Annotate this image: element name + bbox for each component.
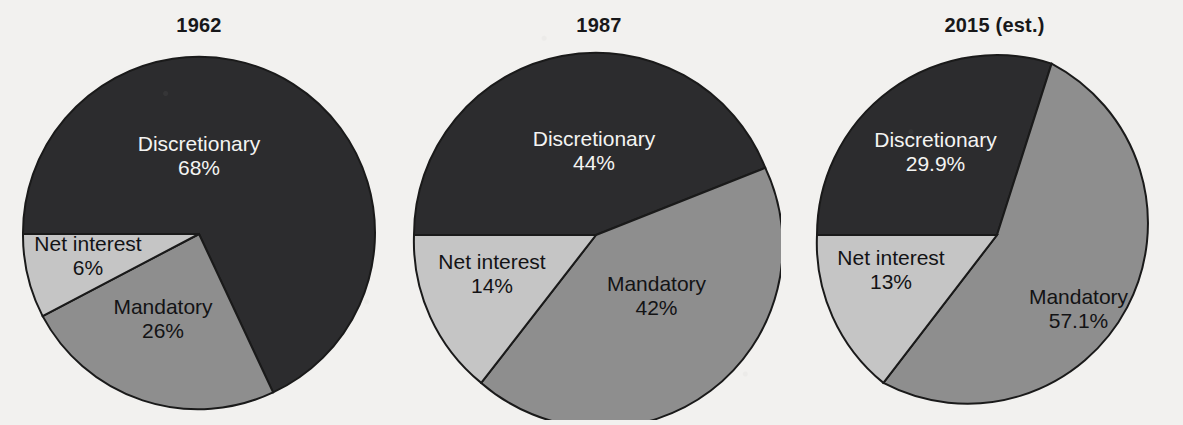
pie-chart-1962: 1962 Discretionary 68% Mandatory 26% Net… xyxy=(0,0,398,425)
pie-svg-1962 xyxy=(20,55,378,413)
chart-title-1962: 1962 xyxy=(0,13,398,37)
pie-graphic-2015 xyxy=(814,52,1180,418)
pie-graphic-1962 xyxy=(20,55,378,413)
pie-svg-2015 xyxy=(814,52,1180,418)
pie-graphic-1987 xyxy=(411,50,781,420)
figure-canvas: 1962 Discretionary 68% Mandatory 26% Net… xyxy=(0,0,1183,425)
chart-title-2015: 2015 (est.) xyxy=(806,13,1183,37)
chart-title-1987: 1987 xyxy=(404,13,794,37)
pie-chart-1987: 1987 Discretionary 44% Mandatory 42% Net… xyxy=(404,0,794,425)
pie-svg-1987 xyxy=(411,50,781,420)
pie-chart-2015: 2015 (est.) Discretionary 29.9% Mandator… xyxy=(806,0,1183,425)
